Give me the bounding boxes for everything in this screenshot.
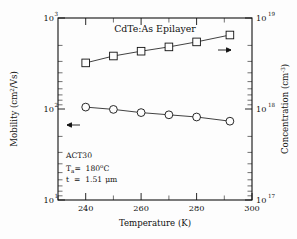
x-tick-label: 240 xyxy=(78,203,94,213)
y-left-axis-ticks xyxy=(58,18,65,200)
y-right-tick-label: 10 17 xyxy=(256,193,276,205)
data-point-circle xyxy=(226,117,234,125)
data-point-square xyxy=(137,47,145,55)
data-point-circle xyxy=(193,113,201,121)
svg-text:10: 10 xyxy=(44,104,54,114)
y-left-tick-label: 10 1 xyxy=(44,193,58,205)
svg-text:19: 19 xyxy=(268,11,276,17)
y-right-axis-ticks xyxy=(245,18,252,200)
data-point-square xyxy=(226,31,234,39)
svg-text:2: 2 xyxy=(55,102,59,108)
svg-text:10: 10 xyxy=(256,195,266,205)
annotation-sample-id: ACT30 xyxy=(65,151,92,160)
svg-text:10: 10 xyxy=(44,195,54,205)
svg-text:Concentration (cm-3): Concentration (cm-3) xyxy=(280,64,290,154)
y-right-axis-title: Concentration (cm-3) xyxy=(280,64,290,154)
svg-text:1: 1 xyxy=(55,193,59,199)
data-point-square xyxy=(82,59,90,67)
svg-text:18: 18 xyxy=(268,102,276,108)
figure-container: CdTe:As Epilayer 240 260 280 300 Tempera… xyxy=(0,0,297,239)
y-left-tick-label: 10 3 xyxy=(44,11,59,23)
data-point-square xyxy=(110,52,118,60)
data-point-square xyxy=(193,38,201,46)
data-point-square xyxy=(165,43,173,51)
svg-text:10: 10 xyxy=(256,104,266,114)
x-tick-label: 280 xyxy=(189,203,205,213)
svg-text:17: 17 xyxy=(268,193,276,199)
svg-text:10: 10 xyxy=(256,13,266,23)
y-left-axis-title: Mobility (cm2/Vs) xyxy=(9,71,19,147)
y-left-tick-label: 10 2 xyxy=(44,102,59,114)
annotation-thickness: t= 1.51μm xyxy=(66,175,117,184)
y-right-tick-label: 10 19 xyxy=(256,11,276,23)
svg-text:3: 3 xyxy=(55,11,59,17)
data-point-circle xyxy=(165,111,173,119)
x-tick-label: 260 xyxy=(133,203,149,213)
svg-text:10: 10 xyxy=(44,13,54,23)
data-point-circle xyxy=(110,106,118,114)
data-point-circle xyxy=(82,103,90,111)
series-mobility xyxy=(82,103,234,125)
data-point-circle xyxy=(137,109,145,117)
y-right-tick-label: 10 18 xyxy=(256,102,276,114)
chart-canvas: CdTe:As Epilayer 240 260 280 300 Tempera… xyxy=(0,0,297,239)
svg-text:Mobility (cm2/Vs): Mobility (cm2/Vs) xyxy=(9,71,19,147)
annotation-anneal-temp: Ta= 180oC xyxy=(66,163,109,175)
arrow-left-icon xyxy=(67,123,80,127)
x-axis-title: Temperature (K) xyxy=(119,218,191,228)
arrow-right-icon xyxy=(218,48,231,52)
series-concentration xyxy=(82,31,234,66)
chart-title: CdTe:As Epilayer xyxy=(114,23,196,34)
